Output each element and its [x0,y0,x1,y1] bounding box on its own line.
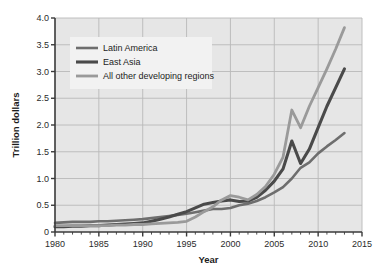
chart-figure: 00.51.01.52.02.53.03.54.0198019851990199… [0,0,387,272]
y-tick-label: 0 [44,227,49,237]
y-tick-label: 1.5 [36,147,49,157]
y-tick-label: 3.0 [36,67,49,77]
y-tick-label: 3.5 [36,40,49,50]
x-tick-label: 1995 [177,239,197,249]
y-tick-label: 4.0 [36,13,49,23]
x-tick-label: 2010 [308,239,328,249]
x-tick-label: 2015 [352,239,372,249]
y-tick-label: 0.5 [36,200,49,210]
legend: Latin AmericaEast AsiaAll other developi… [70,37,215,89]
x-tick-label: 2005 [264,239,284,249]
x-axis-title: Year [198,254,218,265]
y-tick-label: 2.0 [36,120,49,130]
y-tick-label: 2.5 [36,93,49,103]
x-tick-label: 1985 [89,239,109,249]
x-tick-label: 1980 [45,239,65,249]
legend-label-2: All other developing regions [103,71,215,81]
x-tick-label: 2000 [220,239,240,249]
x-tick-label: 1990 [133,239,153,249]
y-tick-label: 1.0 [36,174,49,184]
line-chart: 00.51.01.52.02.53.03.54.0198019851990199… [0,0,387,272]
legend-label-1: East Asia [103,57,141,67]
legend-label-0: Latin America [103,43,158,53]
y-axis-title: Trillion dollars [10,93,21,158]
